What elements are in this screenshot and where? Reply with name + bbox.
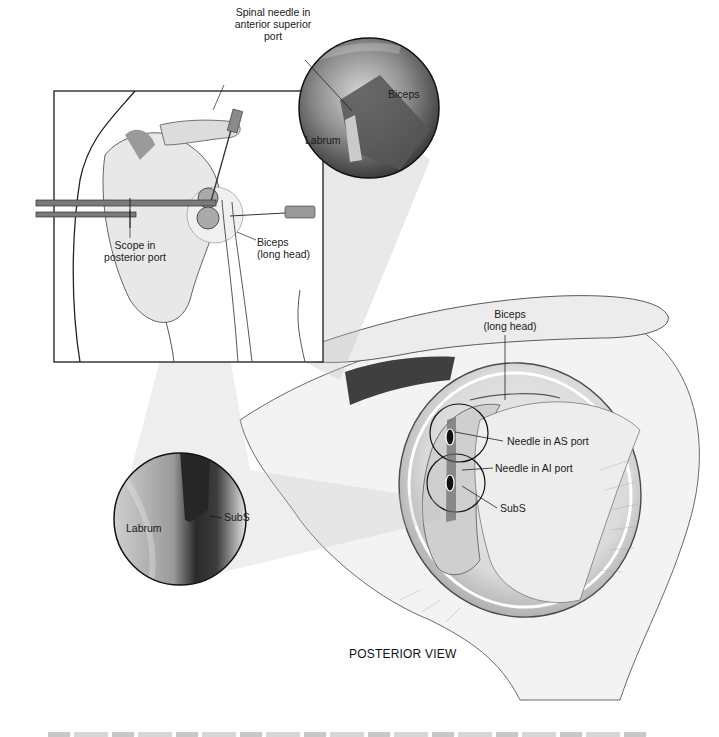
label-spinal-needle: Spinal needle in anterior superior port	[218, 6, 328, 42]
needle-as-tip	[446, 429, 454, 445]
label-scope-posterior: Scope in posterior port	[95, 239, 175, 263]
label-needle-as: Needle in AS port	[507, 435, 589, 447]
label-line: (long head)	[257, 248, 337, 260]
label-inset-biceps: Biceps (long head)	[257, 236, 337, 260]
label-line: Scope in	[95, 239, 175, 251]
label-line: Biceps	[475, 308, 545, 320]
label-line: Biceps	[257, 236, 337, 248]
label-line: Spinal needle in	[218, 6, 328, 18]
label-line: posterior port	[95, 251, 175, 263]
label-line: port	[218, 30, 328, 42]
figure-stage: Spinal needle in anterior superior port …	[0, 0, 719, 737]
label-line: anterior superior	[218, 18, 328, 30]
label-bottom-labrum: Labrum	[126, 522, 162, 534]
needle-ai-tip	[446, 475, 454, 491]
ai-needle-hub	[285, 206, 315, 218]
figure-caption-truncated	[48, 732, 648, 737]
illustration	[0, 0, 719, 737]
inset-panel	[36, 85, 323, 362]
label-main-subs: SubS	[500, 502, 526, 514]
label-main-biceps: Biceps (long head)	[475, 308, 545, 332]
label-needle-ai: Needle in AI port	[495, 462, 573, 474]
label-top-labrum: Labrum	[305, 134, 341, 146]
label-top-biceps: Biceps	[388, 88, 420, 100]
scope-view-top	[299, 38, 439, 178]
label-line: (long head)	[475, 320, 545, 332]
label-bottom-subs: SubS	[224, 511, 250, 523]
view-title: POSTERIOR VIEW	[349, 647, 456, 661]
